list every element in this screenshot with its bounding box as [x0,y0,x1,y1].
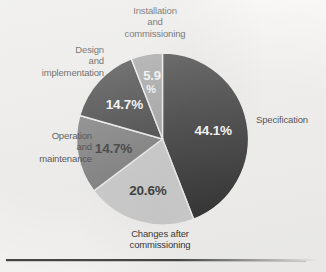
pie-chart-figure: 44.1%20.6%14.7%14.7%5.9% Installation an… [0,0,326,272]
callout-label-operation-and-maintenance: Operation and maintenance [10,130,92,164]
callout-label-design-and-implementation: Design and implementation [8,44,104,78]
callout-label-changes-after-commissioning: Changes after commissioning [104,228,216,251]
pie-slice-value: 5.9 [143,68,160,83]
bottom-divider-rule [6,259,318,261]
pie-slice-value: 44.1% [195,123,232,138]
pie-slice-value: 14.7% [106,97,143,112]
pie-slice-value: 14.7% [95,141,132,156]
pie-slices [77,53,249,225]
callout-label-specification: Specification [256,114,324,125]
pie-slice-value: 20.6% [129,183,166,198]
pie-slice-value-unit: % [146,83,156,95]
callout-label-installation-and-commissioning: Installation and commissioning [103,5,207,39]
